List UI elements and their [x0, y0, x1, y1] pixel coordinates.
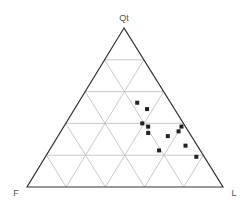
data-point [146, 125, 150, 129]
data-point [145, 107, 149, 111]
grid-line-f [46, 155, 66, 187]
grid-line-l [184, 155, 203, 187]
triangle-frame [27, 28, 223, 187]
data-point [194, 155, 198, 159]
data-point [146, 131, 150, 135]
data-point [184, 144, 188, 148]
data-point [140, 121, 144, 125]
data-point [135, 101, 139, 105]
data-point [177, 129, 181, 133]
vertex-label-right: L [231, 188, 236, 198]
ternary-diagram: Qt F L [0, 0, 243, 201]
data-point [157, 148, 161, 152]
vertex-label-left: F [13, 188, 19, 198]
data-point [179, 125, 183, 129]
grid-line-l [105, 92, 163, 187]
data-point [166, 134, 170, 138]
vertex-label-top: Qt [119, 13, 129, 23]
grid-lines [46, 60, 203, 187]
grid-line-f [85, 92, 144, 187]
